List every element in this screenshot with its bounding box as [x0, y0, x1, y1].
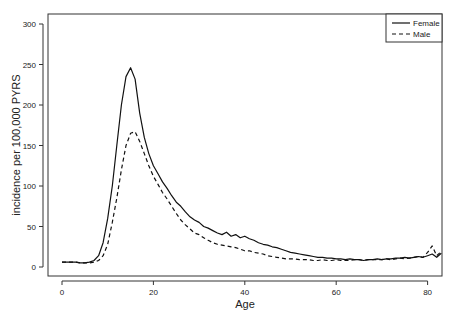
data-series — [62, 68, 441, 263]
y-axis-label: incidence per 100,000 PYRS — [10, 74, 22, 215]
y-tick-label: 50 — [27, 223, 36, 232]
x-tick-label: 60 — [332, 288, 341, 297]
legend-male-label: Male — [413, 30, 431, 39]
y-tick-label: 150 — [23, 142, 37, 151]
x-axis: 020406080 — [60, 281, 433, 297]
y-tick-label: 250 — [23, 61, 37, 70]
chart: 050100150200250300 020406080 incidence p… — [0, 0, 454, 318]
y-tick-label: 300 — [23, 20, 37, 29]
x-axis-label: Age — [235, 298, 255, 310]
y-tick-label: 200 — [23, 101, 37, 110]
series-male-line — [62, 132, 441, 263]
x-tick-label: 0 — [60, 288, 65, 297]
x-tick-label: 20 — [149, 288, 158, 297]
x-tick-label: 40 — [240, 288, 249, 297]
legend-female-label: Female — [413, 19, 440, 28]
x-tick-label: 80 — [423, 288, 432, 297]
y-tick-label: 0 — [32, 263, 37, 272]
y-axis: 050100150200250300 — [23, 20, 43, 272]
y-tick-label: 100 — [23, 182, 37, 191]
series-female-line — [62, 68, 441, 263]
legend: Female Male — [386, 14, 442, 42]
